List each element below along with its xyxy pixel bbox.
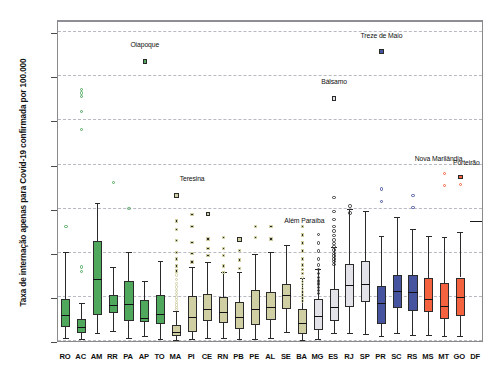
box-iqr — [61, 299, 70, 328]
boxplot-ba — [295, 20, 311, 341]
outlier-point — [301, 257, 304, 260]
outlier-point — [175, 278, 178, 281]
cap-lower — [315, 339, 321, 340]
extreme-point — [332, 96, 336, 100]
outlier-point — [80, 128, 83, 131]
median-line — [440, 306, 449, 307]
whisker-upper — [97, 204, 98, 240]
whisker-upper — [444, 238, 445, 283]
outlier-point — [317, 263, 320, 266]
cap-upper — [347, 209, 353, 210]
x-tick-label-rj: RJ — [344, 352, 353, 361]
box-iqr — [424, 278, 433, 312]
median-line — [61, 315, 70, 316]
outlier-point — [222, 264, 225, 267]
extreme-point — [143, 59, 147, 63]
box-iqr — [377, 286, 386, 324]
whisker-lower — [412, 311, 413, 336]
outlier-point — [80, 88, 83, 91]
whisker-upper — [412, 230, 413, 276]
cap-upper — [426, 236, 432, 237]
outlier-point — [301, 225, 304, 228]
outlier-point — [317, 241, 320, 244]
cap-upper — [363, 211, 369, 212]
whisker-upper — [270, 253, 271, 292]
cap-lower — [379, 336, 385, 337]
x-tick-label-al: AL — [265, 352, 275, 361]
x-tick-label-ba: BA — [296, 352, 307, 361]
cap-lower — [426, 335, 432, 336]
whisker-lower — [128, 321, 129, 340]
outlier-point — [348, 211, 351, 214]
whisker-lower — [428, 312, 429, 336]
x-tick-label-mg: MG — [311, 352, 323, 361]
boxplot-pr — [374, 20, 390, 341]
whisker-lower — [270, 320, 271, 339]
whisker-upper — [381, 237, 382, 286]
single-value-marker — [470, 221, 482, 222]
cap-lower — [442, 336, 448, 337]
whisker-lower — [223, 323, 224, 338]
median-line — [393, 291, 402, 292]
annotation-label: Oiapoque — [130, 41, 159, 48]
outlier-point — [411, 206, 414, 209]
annotation-label: Treze de Maio — [360, 32, 402, 39]
outlier-point — [175, 257, 178, 260]
whisker-lower — [397, 308, 398, 334]
x-tick-label-ro: RO — [59, 352, 70, 361]
whisker-upper — [460, 233, 461, 278]
extreme-point — [458, 175, 462, 179]
cap-upper — [284, 245, 290, 246]
median-line — [219, 312, 228, 313]
outlier-point — [80, 265, 83, 268]
cap-lower — [158, 339, 164, 340]
outlier-point — [301, 263, 304, 266]
boxplot-pb — [232, 20, 248, 341]
outlier-point — [348, 204, 351, 207]
x-tick-label-ap: AP — [139, 352, 149, 361]
whisker-upper — [397, 218, 398, 275]
x-tick-label-rr: RR — [107, 352, 118, 361]
outlier-point — [175, 273, 178, 276]
outlier-point — [175, 251, 178, 254]
cap-lower — [126, 338, 132, 339]
x-tick-label-se: SE — [281, 352, 291, 361]
outlier-point — [80, 270, 83, 273]
annotation-label: Porteirão — [453, 159, 480, 166]
median-line — [203, 309, 212, 310]
annotation-label: Além Paraíba — [284, 217, 324, 224]
outlier-point — [222, 254, 225, 257]
outlier-point — [332, 218, 335, 221]
outlier-point — [80, 110, 83, 113]
cap-upper — [173, 311, 179, 312]
whisker-upper — [176, 312, 177, 325]
median-line — [298, 323, 307, 324]
extreme-point — [379, 49, 383, 53]
outlier-point — [175, 228, 178, 231]
median-line — [408, 292, 417, 293]
outlier-point — [190, 225, 193, 228]
whisker-lower — [286, 309, 287, 333]
whisker-upper — [239, 273, 240, 303]
median-line — [188, 317, 197, 318]
outlier-point — [175, 264, 178, 267]
x-tick-label-pr: PR — [375, 352, 385, 361]
boxplot-pe — [247, 20, 263, 341]
cap-upper — [442, 237, 448, 238]
cap-upper — [79, 303, 85, 304]
box-iqr — [330, 289, 339, 321]
cap-lower — [284, 332, 290, 333]
outlier-point — [190, 213, 193, 216]
outlier-point — [190, 241, 193, 244]
cap-upper — [189, 267, 195, 268]
outlier-point — [190, 260, 193, 263]
outlier-point — [238, 267, 241, 270]
outlier-point — [332, 225, 335, 228]
outlier-point — [301, 268, 304, 271]
box-iqr — [314, 299, 323, 330]
whisker-upper — [65, 253, 66, 299]
cap-lower — [410, 335, 416, 336]
boxplot-sp — [358, 20, 374, 341]
outlier-point — [127, 207, 130, 210]
whisker-lower — [113, 313, 114, 332]
